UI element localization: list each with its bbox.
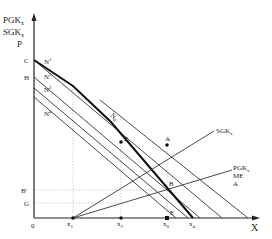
y-label-c: C bbox=[24, 57, 29, 65]
line-n1-upper bbox=[100, 100, 248, 218]
label-n3: N3 bbox=[44, 85, 52, 94]
x-label-x0: x0 bbox=[163, 220, 170, 229]
x-label-x4: x4 bbox=[189, 220, 196, 229]
y-label-h: H bbox=[24, 74, 29, 82]
origin-label: 0 bbox=[31, 222, 35, 230]
x-axis-arrow-icon bbox=[252, 216, 260, 221]
y-axis-title-3: P bbox=[17, 39, 22, 49]
label-me: ME bbox=[233, 172, 244, 180]
y-axis-arrow-icon bbox=[32, 13, 37, 21]
points bbox=[71, 140, 169, 220]
label-n1: N1 bbox=[44, 57, 52, 66]
demand-lines bbox=[34, 60, 248, 218]
y-axis-title-1: PGKx bbox=[3, 15, 24, 26]
x-label-x2: x2 bbox=[117, 220, 124, 229]
guide-lines bbox=[34, 86, 167, 218]
label-e: E bbox=[170, 209, 174, 217]
axes bbox=[34, 18, 255, 218]
y-axis-title-2: SGKx bbox=[3, 27, 24, 38]
y-label-b-prime: B' bbox=[21, 187, 27, 195]
label-b: B bbox=[169, 180, 174, 188]
y-label-g: G bbox=[24, 200, 29, 208]
point-a bbox=[165, 143, 169, 147]
spacer bbox=[34, 60, 237, 218]
label-n2: N2 bbox=[44, 72, 52, 81]
label-n4: N4 bbox=[44, 109, 52, 118]
x-axis-title: X bbox=[251, 222, 259, 233]
economics-diagram: PGKx SGKx P C H B' G 0 x1 x2 x0 x4 X N1 … bbox=[0, 0, 272, 239]
point-z bbox=[119, 140, 123, 144]
line-n3 bbox=[34, 88, 188, 218]
label-z: Z bbox=[124, 135, 128, 143]
x-label-x1: x1 bbox=[67, 220, 74, 229]
label-a-line: A bbox=[233, 180, 238, 188]
point-x1 bbox=[71, 216, 75, 220]
label-sgk: SGKx bbox=[216, 127, 233, 136]
label-a: A bbox=[165, 135, 170, 143]
